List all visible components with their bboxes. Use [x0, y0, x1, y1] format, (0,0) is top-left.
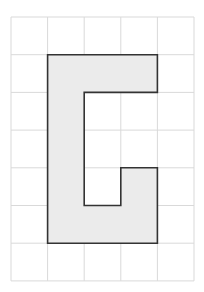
rectilinear-shape — [48, 55, 158, 244]
grid-diagram — [0, 0, 204, 292]
